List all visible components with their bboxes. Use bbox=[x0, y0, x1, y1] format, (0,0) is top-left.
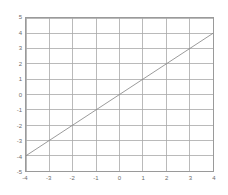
x-tick-label: 3 bbox=[180, 175, 200, 181]
x-tick-label: 2 bbox=[157, 175, 177, 181]
series-line bbox=[26, 33, 213, 155]
y-tick-label: 0 bbox=[2, 92, 22, 98]
x-tick-label: -2 bbox=[62, 175, 82, 181]
y-tick-label: -4 bbox=[2, 154, 22, 160]
y-tick-label: 4 bbox=[2, 30, 22, 36]
y-tick-label: 1 bbox=[2, 76, 22, 82]
x-tick-label: 4 bbox=[204, 175, 224, 181]
y-tick-label: 3 bbox=[2, 45, 22, 51]
data-series-line bbox=[26, 18, 213, 171]
y-tick-label: 5 bbox=[2, 14, 22, 20]
y-tick-label: -2 bbox=[2, 123, 22, 129]
x-tick-label: 0 bbox=[110, 175, 130, 181]
x-tick-label: -1 bbox=[86, 175, 106, 181]
plot-area bbox=[25, 17, 214, 172]
x-tick-label: -3 bbox=[39, 175, 59, 181]
x-tick-label: -4 bbox=[15, 175, 35, 181]
figure-canvas: 543210-1-2-3-4-5 -4-3-2-101234 bbox=[0, 0, 228, 195]
y-tick-label: -1 bbox=[2, 107, 22, 113]
y-tick-label: -3 bbox=[2, 138, 22, 144]
x-tick-label: 1 bbox=[133, 175, 153, 181]
y-tick-label: 2 bbox=[2, 61, 22, 67]
